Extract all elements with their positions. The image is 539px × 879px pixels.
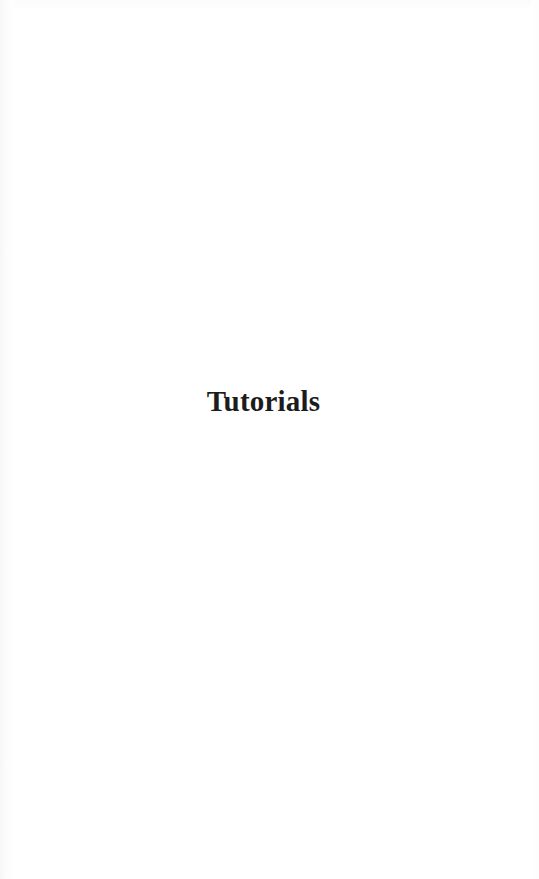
part-title-block: Tutorials: [0, 384, 527, 418]
scan-edge-top: [0, 0, 539, 10]
scan-edge-left: [0, 0, 14, 879]
page-title: Tutorials: [207, 384, 321, 418]
scan-edge-right: [531, 0, 539, 879]
scanned-page: Tutorials: [0, 0, 539, 879]
